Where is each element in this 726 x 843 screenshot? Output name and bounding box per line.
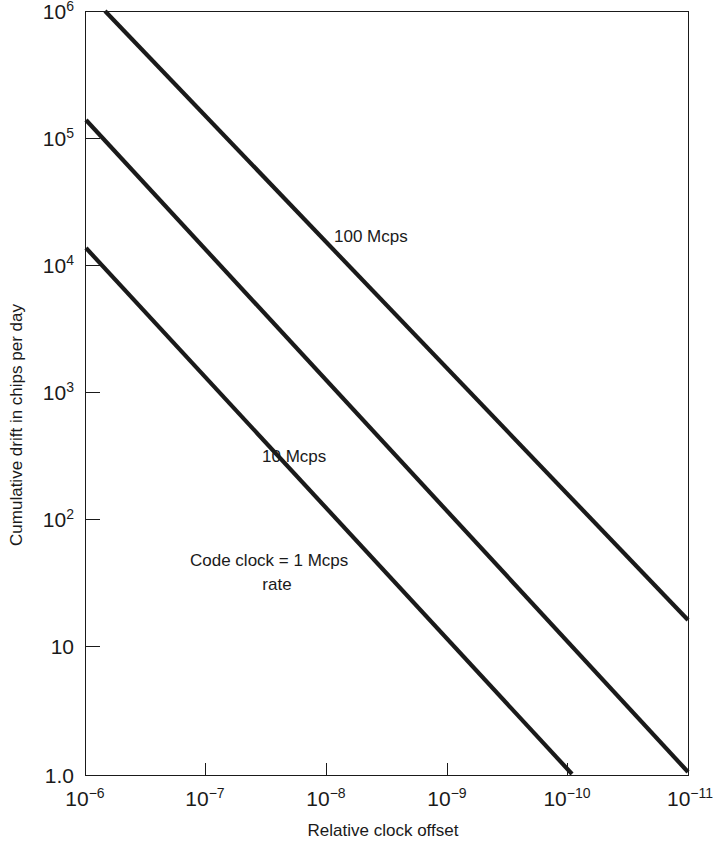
x-tick-label-1e-7: 10−7 [185,785,225,810]
plot-frame [86,12,689,776]
x-tick-label-1e-9: 10−9 [427,785,467,810]
x-tick-label-1e-8: 10−8 [306,785,346,810]
y-tick-label-10: 10 [51,635,74,658]
data-series [86,11,688,774]
series-line-100-mcps [105,11,688,620]
y-tick-labels: 106 105 104 103 102 10 1.0 [43,0,74,787]
series-line-10-mcps [86,120,688,772]
y-axis-title: Cumulative drift in chips per day [7,304,26,546]
y-tick-label-1e6: 106 [43,0,74,23]
x-tick-labels: 10−6 10−7 10−8 10−9 10−10 10−11 [65,785,713,810]
x-tick-label-1e-6: 10−6 [65,785,105,810]
y-tick-label-1e5: 105 [43,125,74,150]
series-line-1-mcps [86,248,572,774]
y-tick-label-1e2: 102 [43,506,74,531]
chart-page: 106 105 104 103 102 10 1.0 10−6 10−7 [0,0,726,843]
series-annotation-100-mcps: 100 Mcps [334,227,408,246]
plot-border [86,12,689,776]
y-axis-ticks [86,139,100,647]
y-tick-label-1: 1.0 [45,764,74,787]
series-annotation-1-mcps-line2: rate [262,575,291,594]
x-tick-label-1e-11: 10−11 [667,785,713,810]
y-tick-label-1e3: 103 [43,379,74,404]
series-annotation-10-mcps: 10 Mcps [262,447,326,466]
x-axis-ticks [206,763,568,776]
log-log-chart: 106 105 104 103 102 10 1.0 10−6 10−7 [0,0,726,843]
x-tick-label-1e-10: 10−10 [543,785,590,810]
series-annotation-1-mcps-line1: Code clock = 1 Mcps [190,551,348,570]
y-tick-label-1e4: 104 [43,252,74,277]
x-axis-title: Relative clock offset [308,821,459,840]
